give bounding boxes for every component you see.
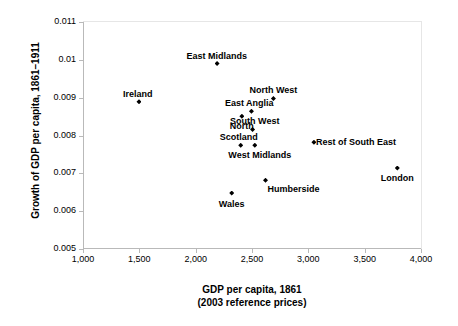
data-point-label: West Midlands bbox=[228, 150, 291, 160]
bottom-caption bbox=[4, 316, 304, 325]
y-tick-label: 0.006 bbox=[20, 205, 76, 216]
y-tick bbox=[79, 60, 83, 61]
data-point-label: East Midlands bbox=[187, 51, 248, 61]
y-tick-label: 0.009 bbox=[20, 92, 76, 103]
x-tick-label: 1,000 bbox=[53, 254, 113, 265]
x-axis-title-line1: GDP per capita, 1861 bbox=[83, 283, 421, 296]
x-tick-label: 3,000 bbox=[278, 254, 338, 265]
plot-frame-right bbox=[421, 21, 422, 250]
y-tick bbox=[79, 211, 83, 212]
x-tick bbox=[252, 249, 253, 253]
y-tick bbox=[79, 136, 83, 137]
y-tick bbox=[79, 173, 83, 174]
x-tick bbox=[139, 249, 140, 253]
x-tick-label: 2,500 bbox=[222, 254, 282, 265]
data-point-label: Humberside bbox=[268, 184, 320, 194]
y-tick bbox=[79, 98, 83, 99]
y-axis-title: Growth of GDP per capita, 1861–1911 bbox=[30, 16, 41, 246]
x-tick bbox=[365, 249, 366, 253]
x-tick-label: 1,500 bbox=[109, 254, 169, 265]
data-point-label: Scotland bbox=[220, 132, 258, 142]
x-tick-label: 2,000 bbox=[166, 254, 226, 265]
y-tick bbox=[79, 249, 83, 250]
y-tick-label: 0.005 bbox=[20, 243, 76, 254]
y-tick-label: 0.008 bbox=[20, 130, 76, 141]
x-tick-label: 4,000 bbox=[391, 254, 451, 265]
scatter-chart-figure: 1,0001,5002,0002,5003,0003,5004,000 0.00… bbox=[0, 0, 458, 326]
x-tick bbox=[421, 249, 422, 253]
x-tick bbox=[308, 249, 309, 253]
y-tick-label: 0.011 bbox=[20, 16, 76, 27]
data-point-label: Rest of South East bbox=[316, 137, 396, 147]
y-tick-label: 0.007 bbox=[20, 167, 76, 178]
x-tick bbox=[83, 249, 84, 253]
data-point-label: London bbox=[381, 173, 414, 183]
x-axis-title: GDP per capita, 1861 (2003 reference pri… bbox=[83, 283, 421, 309]
y-tick-label: 0.01 bbox=[20, 54, 76, 65]
data-point-label: Ireland bbox=[123, 89, 153, 99]
y-tick bbox=[79, 22, 83, 23]
data-point-label: South West bbox=[230, 116, 279, 126]
x-tick-label: 3,500 bbox=[335, 254, 395, 265]
x-axis-title-line2: (2003 reference prices) bbox=[83, 296, 421, 309]
data-point-label: North West bbox=[249, 85, 297, 95]
x-tick bbox=[196, 249, 197, 253]
data-point-label: Wales bbox=[219, 199, 245, 209]
data-point-label: East Anglia bbox=[225, 98, 274, 108]
